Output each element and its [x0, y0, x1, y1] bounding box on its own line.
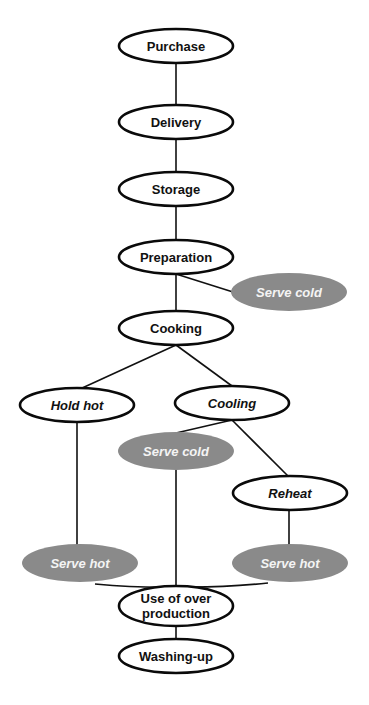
node-use-of-over-production-label-line1: Use of over [141, 591, 212, 606]
node-washing-up-label: Washing-up [139, 649, 213, 664]
node-serve-cold-after-cooling: Serve cold [118, 432, 234, 470]
node-serve-hot-right: Serve hot [232, 544, 348, 582]
node-hold-hot-label: Hold hot [51, 398, 104, 413]
edge-cooling-serve-cold [176, 420, 232, 433]
node-use-of-over-production: Use of over production [119, 586, 233, 626]
node-preparation: Preparation [119, 240, 233, 274]
node-hold-hot: Hold hot [20, 388, 134, 422]
edge-cooking-hold-hot [80, 345, 176, 389]
node-storage-label: Storage [152, 182, 200, 197]
node-cooling: Cooling [175, 386, 289, 420]
node-serve-hot-right-label: Serve hot [260, 556, 320, 571]
node-serve-hot-left: Serve hot [22, 544, 138, 582]
node-cooking-label: Cooking [150, 321, 202, 336]
node-delivery-label: Delivery [151, 115, 202, 130]
node-reheat: Reheat [233, 476, 347, 510]
process-flow-diagram: Purchase Delivery Storage Preparation Se… [0, 0, 369, 705]
node-preparation-label: Preparation [140, 250, 212, 265]
node-washing-up: Washing-up [119, 639, 233, 673]
node-purchase-label: Purchase [147, 39, 206, 54]
node-cooling-label: Cooling [208, 396, 256, 411]
edge-cooking-cooling [176, 345, 232, 386]
node-use-of-over-production-label-line2: production [142, 606, 210, 621]
node-reheat-label: Reheat [268, 486, 312, 501]
node-serve-cold-after-cooling-label: Serve cold [143, 444, 210, 459]
node-storage: Storage [119, 172, 233, 206]
node-serve-cold-after-preparation: Serve cold [231, 273, 347, 311]
edge-cooling-reheat [232, 420, 288, 476]
node-serve-cold-after-preparation-label: Serve cold [256, 285, 323, 300]
node-serve-hot-left-label: Serve hot [50, 556, 110, 571]
node-delivery: Delivery [119, 105, 233, 139]
node-purchase: Purchase [119, 29, 233, 63]
edge-preparation-serve-cold [176, 274, 233, 292]
node-cooking: Cooking [119, 311, 233, 345]
